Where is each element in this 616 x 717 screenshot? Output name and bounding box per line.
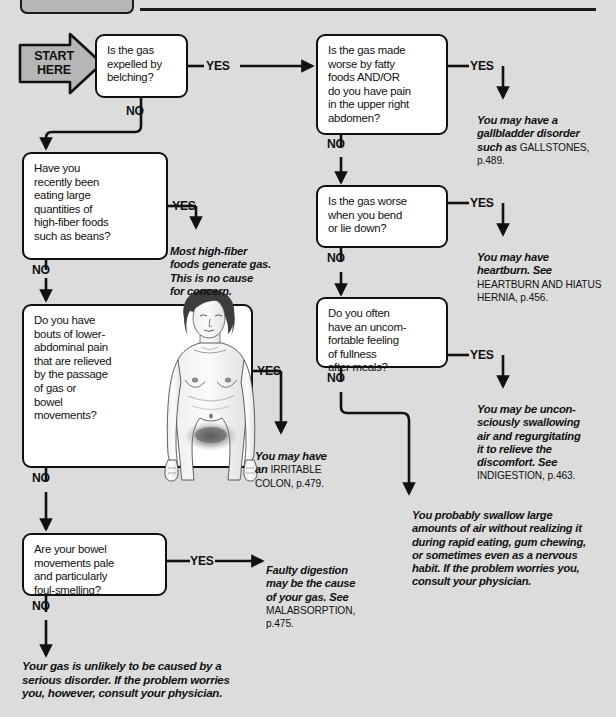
outcome-text: Most high-fiber foods generate gas. This…: [170, 245, 271, 297]
outcome-irritable-colon: You may have an IRRITABLE COLON, p.479.: [255, 437, 365, 490]
question-box-bend-lie-down[interactable]: Is the gas worse when you bend or lie do…: [316, 185, 448, 248]
question-box-belching[interactable]: Is the gas expelled by belching?: [95, 34, 188, 98]
header-title-box: [20, 0, 134, 14]
label-yes-high-fiber: YES: [172, 199, 196, 213]
flowchart-page: START HERE Is the gas expelled by belchi…: [0, 0, 616, 717]
label-no-high-fiber: NO: [32, 263, 50, 277]
label-yes-fullness: YES: [470, 348, 494, 362]
label-yes-bowel-pale: YES: [190, 554, 214, 568]
start-here-label: START HERE: [24, 49, 84, 77]
label-yes-belching: YES: [206, 59, 230, 73]
outcome-indigestion: You may be uncon- sciously swallowing ai…: [477, 390, 616, 482]
question-text: Do you often have an uncom- fortable fee…: [328, 307, 437, 375]
label-no-belching: NO: [126, 104, 144, 118]
outcome-reference: INDIGESTION, p.463.: [477, 470, 575, 481]
final-conclusion-text: Your gas is unlikely to be caused by a s…: [22, 659, 322, 700]
question-text: Is the gas worse when you bend or lie do…: [328, 195, 437, 236]
question-text: Is the gas expelled by belching?: [107, 44, 177, 85]
label-no-bowel-pale: NO: [32, 599, 50, 613]
question-box-bowel-pale[interactable]: Are your bowel movements pale and partic…: [22, 533, 167, 596]
outcome-swallow-air: You probably swallow large amounts of ai…: [412, 496, 616, 588]
outcome-gallstones: You may have a gallbladder disorder such…: [477, 101, 615, 167]
outcome-reference: HEARTBURN AND HIATUS HERNIA, p.456.: [477, 279, 601, 303]
question-text: Have you recently been eating large quan…: [34, 162, 157, 244]
label-no-bend-lie-down: NO: [327, 251, 345, 265]
female-torso-illustration: [150, 288, 270, 483]
outcome-text: You may have heartburn. See: [477, 251, 552, 276]
label-no-fatty-foods: NO: [327, 137, 345, 151]
outcome-text: You may be uncon- sciously swallowing ai…: [477, 403, 581, 468]
label-no-fullness: NO: [327, 371, 345, 385]
label-yes-fatty-foods: YES: [470, 59, 494, 73]
outcome-reference: MALABSORPTION, p.475.: [266, 605, 355, 629]
question-text: Is the gas made worse by fatty foods AND…: [328, 44, 437, 126]
question-box-high-fiber[interactable]: Have you recently been eating large quan…: [22, 152, 168, 260]
outcome-high-fiber: Most high-fiber foods generate gas. This…: [170, 232, 295, 298]
outcome-text: Faulty digestion may be the cause of you…: [266, 564, 355, 602]
question-box-fatty-foods[interactable]: Is the gas made worse by fatty foods AND…: [316, 34, 448, 135]
label-yes-lower-abdominal: YES: [257, 364, 281, 378]
outcome-malabsorption: Faulty digestion may be the cause of you…: [266, 551, 396, 630]
label-yes-bend-lie-down: YES: [470, 196, 494, 210]
label-no-lower-abdominal: NO: [32, 471, 50, 485]
question-text: Are your bowel movements pale and partic…: [34, 543, 156, 597]
question-box-fullness[interactable]: Do you often have an uncom- fortable fee…: [316, 297, 448, 368]
outcome-text: You probably swallow large amounts of ai…: [412, 509, 586, 587]
outcome-heartburn: You may have heartburn. See HEARTBURN AN…: [477, 238, 615, 304]
header-divider-rule: [140, 8, 596, 11]
